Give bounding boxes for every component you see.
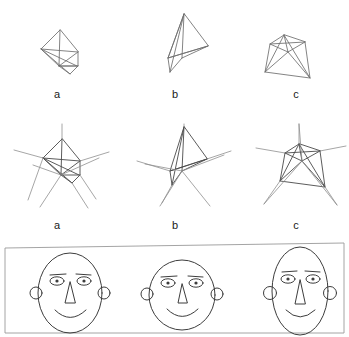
left-pupil bbox=[166, 281, 169, 284]
row1-shape-b bbox=[168, 14, 208, 72]
left-eyebrow bbox=[50, 274, 66, 275]
head-outline bbox=[38, 253, 102, 333]
mouth bbox=[55, 310, 86, 318]
face-oval-tall bbox=[30, 253, 110, 333]
right-ear bbox=[211, 288, 223, 300]
left-ear bbox=[141, 288, 153, 300]
right-pupil bbox=[82, 279, 85, 282]
left-pupil bbox=[55, 279, 58, 282]
nose bbox=[295, 280, 305, 304]
right-eyebrow bbox=[76, 274, 91, 275]
row1-label-a: a bbox=[47, 88, 67, 101]
row2-shape-b bbox=[137, 124, 231, 206]
figure-root: a b c a b c bbox=[0, 0, 349, 337]
right-eyebrow bbox=[305, 271, 320, 272]
row1-label-b: b bbox=[165, 88, 185, 101]
mouth bbox=[286, 310, 315, 317]
left-ear bbox=[264, 287, 277, 300]
face-narrow-tall bbox=[264, 247, 337, 335]
right-pupil bbox=[311, 277, 314, 280]
head-outline bbox=[149, 260, 215, 330]
row1-shape-a bbox=[41, 30, 78, 74]
head-outline bbox=[272, 247, 328, 335]
right-eyebrow bbox=[188, 276, 203, 277]
nose bbox=[178, 284, 187, 303]
row2-label-b: b bbox=[165, 219, 185, 232]
right-ear bbox=[98, 287, 110, 299]
nose bbox=[65, 282, 75, 303]
row2-shape-c bbox=[256, 124, 346, 205]
left-eyebrow bbox=[161, 276, 177, 277]
left-eyebrow bbox=[282, 271, 297, 272]
row2-shape-a bbox=[14, 124, 109, 208]
mouth bbox=[167, 309, 198, 317]
row1-label-c: c bbox=[286, 88, 306, 101]
left-pupil bbox=[286, 277, 289, 280]
right-ear bbox=[324, 287, 337, 300]
right-pupil bbox=[194, 281, 197, 284]
row2-label-c: c bbox=[286, 219, 306, 232]
left-ear bbox=[30, 287, 42, 299]
face-round-wide bbox=[141, 260, 223, 330]
figure-canvas bbox=[0, 0, 349, 337]
row1-shape-c bbox=[265, 35, 310, 78]
row2-label-a: a bbox=[47, 219, 67, 232]
